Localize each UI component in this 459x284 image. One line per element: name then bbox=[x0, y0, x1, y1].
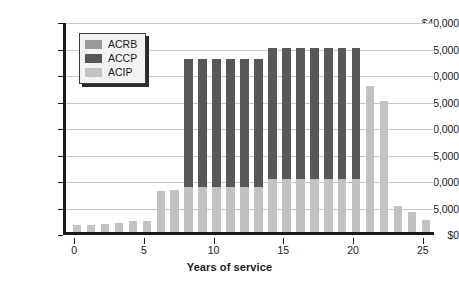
bar-column bbox=[366, 86, 375, 232]
bar-column bbox=[408, 212, 417, 232]
legend-swatch-acrb bbox=[85, 40, 102, 49]
x-axis-title: Years of service bbox=[0, 261, 459, 273]
bar-column bbox=[226, 59, 235, 232]
bar-column bbox=[87, 225, 96, 232]
bar-column bbox=[268, 48, 277, 232]
bar-segment-acip bbox=[394, 206, 403, 233]
legend-label-acip: ACIP bbox=[108, 66, 133, 79]
bar-column bbox=[338, 48, 347, 232]
bar-column bbox=[115, 223, 124, 232]
bar-column bbox=[394, 206, 403, 233]
x-tick-label: 25 bbox=[417, 244, 429, 256]
bar-column bbox=[324, 48, 333, 232]
bar-segment-accp bbox=[240, 59, 249, 187]
bar-column bbox=[157, 191, 166, 232]
bar-segment-acip bbox=[408, 212, 417, 232]
bar-segment-accp bbox=[212, 59, 221, 187]
bar-segment-acip bbox=[240, 187, 249, 232]
bar-segment-acip bbox=[198, 187, 207, 232]
bar-segment-accp bbox=[254, 59, 263, 187]
bar-segment-acip bbox=[254, 187, 263, 232]
bar-segment-acip bbox=[129, 221, 138, 232]
bar-column bbox=[129, 221, 138, 232]
bar-segment-acip bbox=[268, 179, 277, 232]
bar-column bbox=[184, 59, 193, 232]
bar-segment-acip bbox=[101, 224, 110, 232]
bar-segment-acip bbox=[170, 190, 179, 232]
bar-column bbox=[310, 48, 319, 232]
bar-segment-acip bbox=[212, 187, 221, 232]
x-tick-label: 10 bbox=[208, 244, 220, 256]
legend-swatch-accp bbox=[85, 54, 102, 63]
bar-segment-accp bbox=[310, 48, 319, 179]
bar-segment-acip bbox=[422, 220, 431, 232]
legend-swatch-acip bbox=[85, 68, 102, 77]
bar-segment-acip bbox=[296, 179, 305, 232]
bar-segment-acip bbox=[157, 191, 166, 232]
bar-segment-accp bbox=[324, 48, 333, 179]
bar-segment-accp bbox=[352, 48, 361, 179]
bar-segment-acip bbox=[115, 223, 124, 232]
bar-column bbox=[422, 220, 431, 232]
x-tick-label: 0 bbox=[71, 244, 77, 256]
legend-label-accp: ACCP bbox=[108, 52, 137, 65]
bar-column bbox=[296, 48, 305, 232]
x-tick-label: 15 bbox=[278, 244, 290, 256]
bar-column bbox=[254, 59, 263, 232]
bar-segment-acip bbox=[143, 221, 152, 232]
bar-column bbox=[240, 59, 249, 232]
bar-segment-acip bbox=[226, 187, 235, 232]
legend-item-acip: ACIP bbox=[85, 66, 137, 79]
x-tick-label: 5 bbox=[141, 244, 147, 256]
bar-segment-acip bbox=[380, 101, 389, 232]
bar-segment-accp bbox=[268, 48, 277, 179]
x-tick-label: 20 bbox=[347, 244, 359, 256]
bar-column bbox=[101, 224, 110, 232]
bar-segment-acip bbox=[184, 187, 193, 232]
bar-segment-acip bbox=[310, 179, 319, 232]
bar-column bbox=[352, 48, 361, 232]
bar-column bbox=[73, 225, 82, 232]
bar-segment-acip bbox=[324, 179, 333, 232]
bar-segment-acip bbox=[282, 179, 291, 232]
bar-segment-acip bbox=[352, 179, 361, 232]
bar-column bbox=[143, 221, 152, 232]
bar-segment-accp bbox=[184, 59, 193, 187]
bar-segment-accp bbox=[338, 48, 347, 179]
legend-item-accp: ACCP bbox=[85, 52, 137, 65]
bar-segment-acip bbox=[338, 179, 347, 232]
legend-item-acrb: ACRB bbox=[85, 38, 137, 51]
bar-column bbox=[198, 59, 207, 232]
bar-column bbox=[282, 48, 291, 232]
bar-segment-acip bbox=[366, 86, 375, 232]
bar-column bbox=[170, 190, 179, 232]
bar-segment-accp bbox=[198, 59, 207, 187]
bar-segment-accp bbox=[296, 48, 305, 179]
y-tick-mark bbox=[58, 235, 63, 236]
bar-segment-acip bbox=[73, 225, 82, 232]
bar-segment-accp bbox=[226, 59, 235, 187]
bar-column bbox=[380, 101, 389, 232]
bar-column bbox=[212, 59, 221, 232]
chart-legend: ACRB ACCP ACIP bbox=[79, 33, 146, 84]
bar-segment-accp bbox=[282, 48, 291, 179]
legend-label-acrb: ACRB bbox=[108, 38, 137, 51]
chart-figure: $0$5,000$10,000$15,000$20,000$25,000$30,… bbox=[0, 0, 459, 284]
bar-segment-acip bbox=[87, 225, 96, 232]
